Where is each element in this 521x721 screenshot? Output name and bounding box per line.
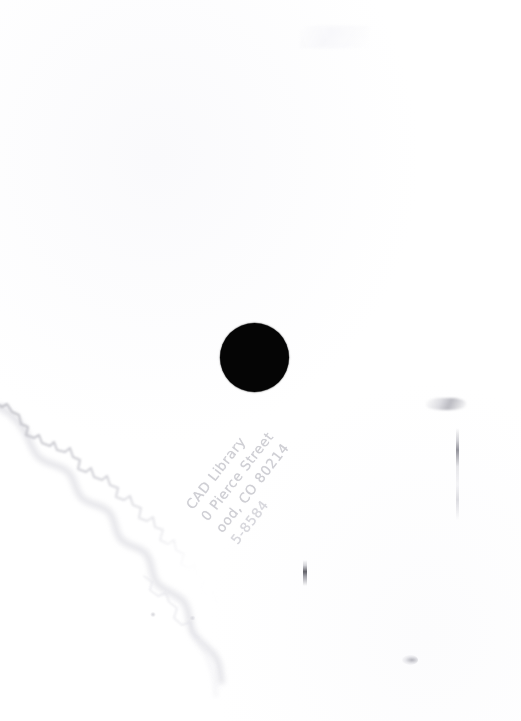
black-dot — [220, 323, 289, 392]
library-address-stamp: CAD Library 0 Pierce Street ood, CO 8021… — [182, 375, 407, 600]
vertical-streak-mark — [456, 428, 459, 520]
stamp-line-4: 5-8584 — [227, 411, 340, 549]
stamp-line-1: CAD Library — [182, 375, 295, 513]
scanned-page: CAD Library 0 Pierce Street ood, CO 8021… — [0, 0, 521, 721]
stamp-line-3: ood, CO 80214 — [212, 399, 325, 537]
smudge-mark — [426, 398, 466, 410]
paper-speck-left — [150, 612, 156, 617]
paper-wisp — [300, 26, 370, 48]
torn-paper-edge — [0, 380, 224, 700]
dark-speck-mark — [303, 560, 307, 586]
paper-speck-left-2 — [189, 616, 196, 620]
stamp-line-2: 0 Pierce Street — [197, 387, 310, 525]
faint-speck-mark — [402, 655, 418, 665]
